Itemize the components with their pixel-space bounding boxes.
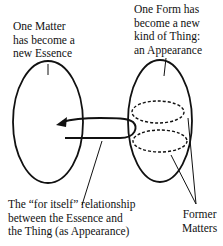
relationship-label: The “for itself” relationship between th…: [8, 198, 135, 239]
relationship-leader-line: [82, 141, 102, 205]
essence-ellipse: [13, 61, 83, 183]
former-matter-ellipse-1: [132, 101, 184, 123]
for-itself-arrow: [62, 118, 135, 138]
essence-label: One Matter has become a new Essence: [13, 20, 75, 61]
appearance-ellipse: [128, 60, 192, 182]
former-matters-label: Former Matters: [182, 208, 217, 235]
former-matter-ellipse-2: [133, 130, 187, 152]
arrowhead-icon: [56, 117, 67, 127]
appearance-label: One Form has become a new kind of Thing:…: [134, 3, 202, 57]
